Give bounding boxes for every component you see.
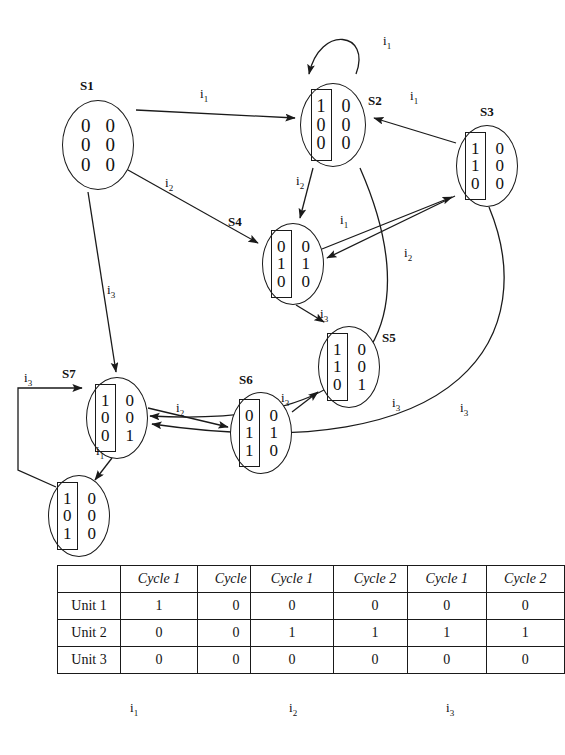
state-matrix-cell: 0 [358, 341, 367, 358]
edge-s3-s2-i1 [374, 118, 456, 143]
state-matrix-column-2: 000 [101, 109, 121, 181]
table-cell: 1 [408, 620, 487, 647]
state-matrix-cell: 0 [342, 116, 351, 134]
state-matrix-cell: 0 [333, 376, 342, 393]
edge-label-s7-s8-i1: i1 [96, 443, 104, 461]
state-matrix-cell: 1 [126, 427, 135, 444]
state-matrix-column-1: 110 [327, 333, 348, 401]
table-caption-subscript: 3 [450, 708, 455, 718]
state-matrix-cell: 0 [88, 490, 97, 507]
state-matrix-column-1: 110 [465, 132, 486, 200]
table-cell: 0 [121, 620, 198, 647]
state-node-unlabeled-7[interactable]: 101000 [48, 475, 110, 557]
edge-label-s1-s4-i2: i2 [165, 175, 173, 193]
table-caption-subscript: 2 [293, 708, 298, 718]
table-caption-i2: i2 [289, 700, 297, 718]
state-matrix-cell: 0 [277, 238, 286, 255]
table-row: Unit 200 [58, 620, 275, 647]
state-node-S5[interactable]: 110001 [318, 326, 380, 408]
table-column-header: Cycle 2 [486, 566, 565, 593]
state-node-S2[interactable]: 100000 [300, 83, 366, 167]
table-caption-i3: i3 [446, 700, 454, 718]
truth-table-i3: Cycle 1Cycle 2001100 [407, 565, 565, 674]
state-label-S1: S1 [80, 78, 94, 94]
edge-label-s3-s7-i3: i3 [460, 400, 468, 418]
edge-s2-s2-i1 [309, 39, 359, 74]
state-matrix-column-1: 101 [57, 482, 78, 550]
state-label-S7: S7 [62, 366, 76, 382]
state-matrix-cell: 1 [63, 525, 72, 542]
state-matrix-cell: 1 [270, 424, 279, 441]
table-header-row: Cycle 1Cycle 2 [58, 566, 275, 593]
table-cell: 0 [408, 647, 487, 674]
edge-label-s3-s4-i2: i2 [404, 245, 412, 263]
table-row-label: Unit 3 [58, 647, 121, 674]
table-cell: 1 [334, 620, 417, 647]
state-matrix-column-2: 010 [297, 231, 316, 297]
state-matrix-cell: 0 [63, 507, 72, 524]
table-cell: 0 [486, 593, 565, 620]
state-matrix-cell: 1 [317, 97, 326, 115]
state-matrix-cell: 0 [81, 155, 91, 174]
edge-label-s4-s3-i1: i1 [340, 212, 348, 230]
state-matrix-cell: 0 [81, 116, 91, 135]
state-matrix-cell: 1 [245, 442, 254, 459]
state-matrix-column-1: 010 [271, 230, 292, 298]
table-row: 00 [251, 647, 417, 674]
state-matrix: 000000 [62, 100, 134, 190]
state-matrix-column-1: 000 [76, 109, 96, 181]
state-matrix-cell: 0 [88, 507, 97, 524]
table-cell: 0 [251, 647, 334, 674]
state-node-S3[interactable]: 110000 [456, 125, 518, 207]
state-matrix-cell: 0 [101, 427, 110, 444]
state-matrix-cell: 0 [496, 157, 505, 174]
state-matrix-cell: 0 [317, 116, 326, 134]
state-matrix-column-1: 100 [95, 384, 116, 452]
state-matrix-cell: 1 [277, 255, 286, 272]
table-caption-base: i [130, 700, 134, 715]
edge-label-s2-s7-i3: i3 [392, 395, 400, 413]
state-matrix-cell: 0 [342, 97, 351, 115]
state-matrix-cell: 1 [302, 255, 311, 272]
state-label-S4: S4 [228, 214, 242, 230]
state-matrix-cell: 1 [333, 341, 342, 358]
state-matrix-cell: 1 [471, 140, 480, 157]
state-label-S6: S6 [239, 372, 253, 388]
table-cell: 0 [486, 647, 565, 674]
state-matrix-cell: 0 [88, 525, 97, 542]
state-node-S4[interactable]: 010010 [262, 223, 324, 305]
state-matrix-cell: 1 [471, 157, 480, 174]
state-matrix-column-2: 001 [121, 385, 140, 451]
state-matrix-cell: 0 [496, 140, 505, 157]
state-label-S2: S2 [368, 93, 382, 109]
state-matrix: 110000 [456, 125, 518, 207]
state-matrix-cell: 0 [496, 175, 505, 192]
table-column-header: Cycle 2 [334, 566, 417, 593]
state-matrix-cell: 0 [106, 135, 116, 154]
state-matrix-cell: 0 [126, 392, 135, 409]
state-matrix-cell: 0 [358, 358, 367, 375]
state-matrix-cell: 0 [277, 273, 286, 290]
state-matrix-column-1: 011 [239, 399, 260, 467]
state-matrix-cell: 1 [333, 358, 342, 375]
table-column-header: Cycle 1 [251, 566, 334, 593]
table-row: Unit 110 [58, 593, 275, 620]
table-caption-i1: i1 [130, 700, 138, 718]
state-matrix-column-2: 010 [265, 400, 284, 466]
table-row: 00 [408, 647, 565, 674]
table-caption-subscript: 1 [134, 708, 139, 718]
edge-label-s2-s2-i1: i1 [383, 33, 391, 51]
table-cell: 0 [121, 647, 198, 674]
state-matrix: 110001 [318, 326, 380, 408]
table-row: Unit 300 [58, 647, 275, 674]
state-matrix-column-1: 100 [311, 89, 332, 160]
state-matrix: 101000 [48, 475, 110, 557]
edge-label-s4-s5-i3: i3 [320, 306, 328, 324]
state-matrix-cell: 0 [302, 273, 311, 290]
table-row: 00 [251, 593, 417, 620]
state-matrix-cell: 0 [81, 135, 91, 154]
table-column-header: Cycle 1 [408, 566, 487, 593]
figure-canvas: 0000001000001100000100101100010110101000… [0, 0, 565, 755]
state-matrix-cell: 0 [317, 134, 326, 152]
state-node-S1[interactable]: 000000 [62, 100, 134, 190]
